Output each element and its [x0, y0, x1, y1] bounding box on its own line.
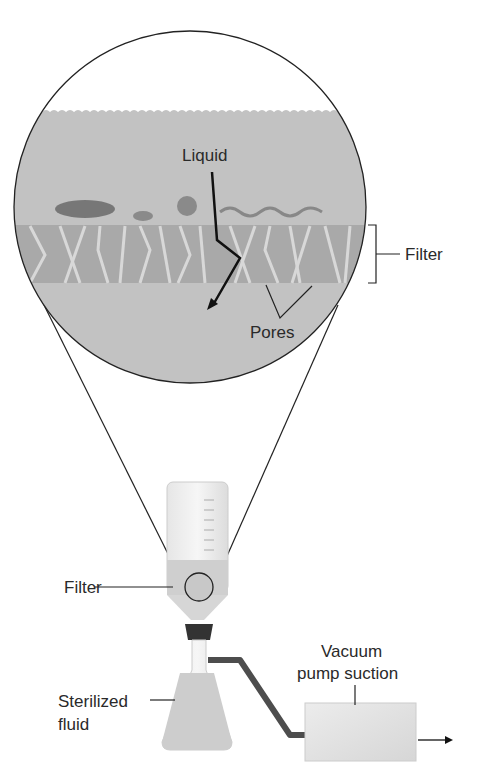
- diagram-canvas: [0, 0, 479, 766]
- bacterium-small: [133, 211, 153, 221]
- vacuum-label-2: pump suction: [297, 664, 398, 683]
- sterilized-label-2: fluid: [58, 715, 89, 734]
- filter-label-apparatus: Filter: [64, 578, 102, 597]
- liquid-label: Liquid: [182, 146, 227, 165]
- filter-label-magnified: Filter: [405, 245, 443, 264]
- stopper: [185, 624, 213, 640]
- bacterium-coccus: [177, 196, 197, 216]
- magnified-view: [0, 0, 479, 400]
- filter-bracket: [368, 225, 400, 283]
- sterilized-fluid: [162, 673, 232, 750]
- sterilized-label-1: Sterilized: [58, 692, 128, 711]
- bacterium-rod: [55, 200, 115, 218]
- vacuum-label-1: Vacuum: [321, 642, 382, 661]
- vacuum-pump: [305, 703, 416, 761]
- pores-label: Pores: [250, 323, 294, 342]
- filter-location-circle: [185, 573, 213, 601]
- exhaust-arrowhead-icon: [445, 736, 453, 744]
